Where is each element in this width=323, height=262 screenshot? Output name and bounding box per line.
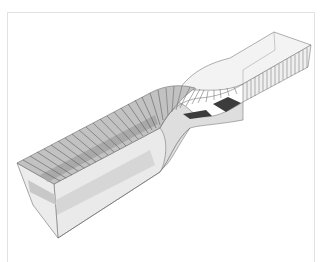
- twisted-tube-diagram: [0, 0, 323, 259]
